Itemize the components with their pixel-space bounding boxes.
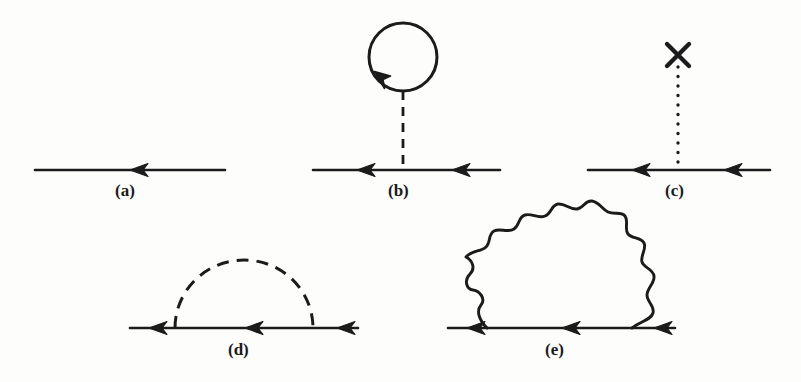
panel-label-b: (b) bbox=[388, 181, 409, 201]
photon-arc-e bbox=[466, 201, 654, 328]
panel-e bbox=[448, 201, 675, 335]
panel-d bbox=[130, 260, 358, 335]
feynman-figure: (a) (b) (c) (d) (e) bbox=[0, 0, 801, 382]
panel-label-c: (c) bbox=[665, 181, 684, 201]
scalar-arc-d bbox=[175, 260, 313, 328]
panel-label-e: (e) bbox=[545, 340, 564, 360]
panel-b bbox=[313, 23, 500, 177]
cross-icon bbox=[667, 44, 689, 66]
panel-label-a: (a) bbox=[115, 181, 135, 201]
panel-a bbox=[35, 164, 225, 177]
panel-c bbox=[588, 44, 770, 177]
panel-label-d: (d) bbox=[228, 340, 249, 360]
